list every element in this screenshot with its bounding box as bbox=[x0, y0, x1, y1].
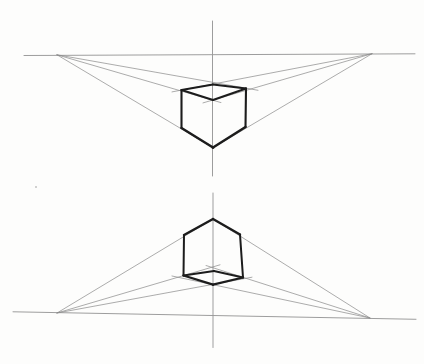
sketch-page bbox=[0, 0, 424, 364]
paper-speck bbox=[35, 186, 37, 188]
perspective-sketch bbox=[0, 0, 424, 364]
cube-edge bbox=[246, 89, 247, 128]
cube-edge bbox=[184, 235, 185, 276]
